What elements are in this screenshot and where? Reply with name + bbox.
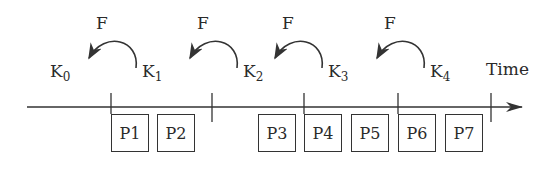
packet-box-p7: P7 — [445, 114, 483, 152]
packet-box-p1: P1 — [111, 114, 149, 152]
packet-box-p2: P2 — [157, 114, 195, 152]
f-label: F — [96, 15, 108, 32]
f-arrow-icon — [275, 41, 322, 68]
f-arrow-icon — [377, 41, 424, 68]
packet-box-p3: P3 — [258, 114, 296, 152]
f-label: F — [384, 15, 396, 32]
key-label-k2: K2 — [243, 63, 263, 83]
f-label: F — [197, 15, 209, 32]
packet-box-p6: P6 — [398, 114, 436, 152]
diagram-canvas: F F F F K0 K1 K2 K3 K4 Time P1 P2 P3 P4 … — [0, 0, 557, 174]
key-label-k4: K4 — [430, 63, 450, 83]
key-label-k3: K3 — [328, 63, 348, 83]
packet-box-p4: P4 — [304, 114, 342, 152]
key-label-k0: K0 — [50, 63, 70, 83]
time-axis-label: Time — [486, 61, 529, 78]
key-label-k1: K1 — [142, 63, 162, 83]
packet-box-p5: P5 — [351, 114, 389, 152]
f-label: F — [282, 15, 294, 32]
f-arrow-icon — [89, 41, 136, 68]
f-arrow-icon — [190, 41, 237, 68]
